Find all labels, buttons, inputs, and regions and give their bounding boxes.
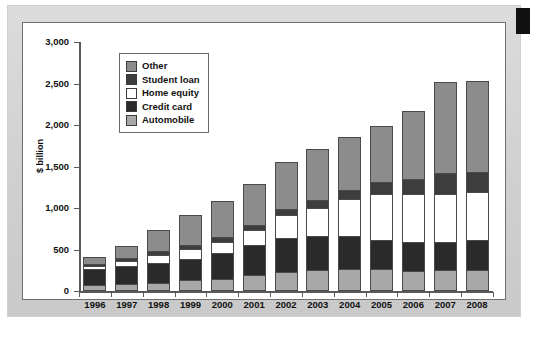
bar-2003 xyxy=(306,149,329,291)
bar-segment-student-loan xyxy=(338,190,361,199)
bar-2004 xyxy=(338,137,361,291)
x-axis-tick xyxy=(397,292,398,297)
bar-segment-other xyxy=(147,230,170,251)
bar-2002 xyxy=(275,162,298,291)
bar-segment-other xyxy=(402,111,425,178)
bar-segment-home-equity xyxy=(211,242,234,254)
bar-2008 xyxy=(466,81,489,291)
bar-segment-other xyxy=(370,126,393,182)
bar-segment-home-equity xyxy=(179,249,202,259)
bar-segment-credit-card xyxy=(402,242,425,271)
x-axis-tick xyxy=(206,292,207,297)
bar-segment-other xyxy=(115,246,138,258)
legend-item-label: Home equity xyxy=(142,88,199,98)
legend-item-credit-card: Credit card xyxy=(126,100,200,113)
legend-item-student-loan: Student loan xyxy=(126,73,200,86)
bar-segment-student-loan xyxy=(466,172,489,193)
bar-segment-home-equity xyxy=(370,194,393,239)
bar-segment-automobile xyxy=(275,272,298,291)
bar-segment-home-equity xyxy=(466,192,489,240)
bar-segment-student-loan xyxy=(434,173,457,194)
x-axis-tick xyxy=(79,292,80,297)
y-axis-tick-label: 2,000 xyxy=(21,120,69,130)
y-axis-tick-label: 1,500 xyxy=(21,162,69,172)
bar-segment-automobile xyxy=(306,270,329,291)
legend-item-automobile: Automobile xyxy=(126,114,200,127)
bar-segment-home-equity xyxy=(243,230,266,245)
bar-segment-other xyxy=(83,257,106,264)
bar-segment-student-loan xyxy=(402,179,425,195)
bar-segment-home-equity xyxy=(402,194,425,242)
bar-segment-credit-card xyxy=(434,242,457,270)
bar-segment-home-equity xyxy=(147,255,170,263)
bar-segment-credit-card xyxy=(370,240,393,270)
bar-segment-home-equity xyxy=(434,194,457,242)
bar-1998 xyxy=(147,230,170,291)
y-axis-tick xyxy=(74,84,80,85)
bar-2006 xyxy=(402,111,425,291)
bar-1999 xyxy=(179,215,202,291)
bar-segment-credit-card xyxy=(83,269,106,285)
x-axis-line xyxy=(79,291,493,293)
bar-2001 xyxy=(243,184,266,291)
y-axis-tick xyxy=(74,167,80,168)
bar-segment-automobile xyxy=(434,270,457,291)
bar-segment-other xyxy=(338,137,361,190)
legend-item-label: Student loan xyxy=(142,75,200,85)
x-axis-tick xyxy=(366,292,367,297)
x-axis-tick xyxy=(270,292,271,297)
bar-segment-credit-card xyxy=(243,245,266,275)
bar-segment-credit-card xyxy=(338,236,361,269)
bar-segment-credit-card xyxy=(211,253,234,278)
bar-segment-automobile xyxy=(179,280,202,291)
x-axis-tick xyxy=(461,292,462,297)
page-edge-tab xyxy=(516,8,530,34)
bar-segment-other xyxy=(306,149,329,200)
bar-2005 xyxy=(370,126,393,291)
scanned-page: $ billion 05001,0001,5002,0002,5003,000 … xyxy=(0,0,538,337)
bar-1997 xyxy=(115,246,138,291)
bar-segment-other xyxy=(275,162,298,210)
bar-segment-other xyxy=(243,184,266,226)
bar-segment-other xyxy=(179,215,202,244)
y-axis-tick-label: 2,500 xyxy=(21,79,69,89)
x-axis-tick xyxy=(111,292,112,297)
legend-item-label: Credit card xyxy=(142,102,192,112)
bar-segment-automobile xyxy=(211,279,234,291)
bar-segment-student-loan xyxy=(370,182,393,194)
legend-item-label: Automobile xyxy=(142,115,194,125)
bar-segment-credit-card xyxy=(179,259,202,281)
x-axis-tick xyxy=(493,292,494,297)
x-axis-tick xyxy=(143,292,144,297)
y-axis-tick-label: 3,000 xyxy=(21,37,69,47)
bar-segment-automobile xyxy=(338,269,361,291)
bar-segment-automobile xyxy=(115,284,138,291)
bar-segment-home-equity xyxy=(306,208,329,236)
legend-swatch-icon xyxy=(126,115,137,126)
x-axis-tick-label: 2008 xyxy=(457,300,497,310)
bar-segment-home-equity xyxy=(275,215,298,238)
bar-segment-student-loan xyxy=(306,200,329,208)
legend-item-home-equity: Home equity xyxy=(126,87,200,100)
y-axis-tick-label: 1,000 xyxy=(21,203,69,213)
plot-area: $ billion 05001,0001,5002,0002,5003,000 … xyxy=(23,23,507,301)
bar-1996 xyxy=(83,257,106,291)
x-axis-tick xyxy=(429,292,430,297)
bar-segment-automobile xyxy=(243,275,266,291)
bar-segment-other xyxy=(211,201,234,237)
legend-item-label: Other xyxy=(142,61,167,71)
y-axis-tick xyxy=(74,125,80,126)
x-axis-tick xyxy=(302,292,303,297)
x-axis-tick xyxy=(334,292,335,297)
bar-segment-credit-card xyxy=(115,266,138,284)
legend-swatch-icon xyxy=(126,101,137,112)
bar-segment-credit-card xyxy=(306,236,329,270)
chart-card: $ billion 05001,0001,5002,0002,5003,000 … xyxy=(22,22,506,300)
legend-swatch-icon xyxy=(126,61,137,72)
bar-segment-automobile xyxy=(402,271,425,291)
bar-2007 xyxy=(434,82,457,291)
bar-segment-other xyxy=(434,82,457,172)
y-axis-tick xyxy=(74,42,80,43)
bar-segment-automobile xyxy=(83,285,106,291)
x-axis-tick xyxy=(175,292,176,297)
